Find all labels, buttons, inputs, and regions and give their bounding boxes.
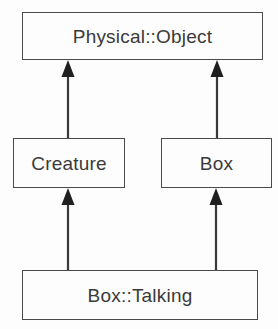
class-box-creature[interactable]: Creature xyxy=(13,138,125,188)
generalization-box-to-physical-object[interactable] xyxy=(211,60,224,138)
generalization-creature-to-physical-object[interactable] xyxy=(62,60,75,138)
class-box-box[interactable]: Box xyxy=(161,138,272,188)
class-box-box-talking[interactable]: Box::Talking xyxy=(22,270,258,320)
class-box-physical-object[interactable]: Physical::Object xyxy=(22,12,263,60)
generalization-box-talking-to-creature[interactable] xyxy=(62,188,75,270)
solid-triangle-arrowhead xyxy=(62,60,75,77)
class-diagram-canvas: Physical::Object Creature Box Box::Talki… xyxy=(0,0,278,329)
solid-triangle-arrowhead xyxy=(62,188,75,205)
class-name-label: Physical::Object xyxy=(73,27,212,46)
class-name-label: Creature xyxy=(31,154,107,173)
generalization-box-talking-to-box[interactable] xyxy=(210,188,223,270)
class-name-label: Box::Talking xyxy=(88,286,193,305)
class-name-label: Box xyxy=(200,154,233,173)
solid-triangle-arrowhead xyxy=(210,188,223,205)
solid-triangle-arrowhead xyxy=(211,60,224,77)
